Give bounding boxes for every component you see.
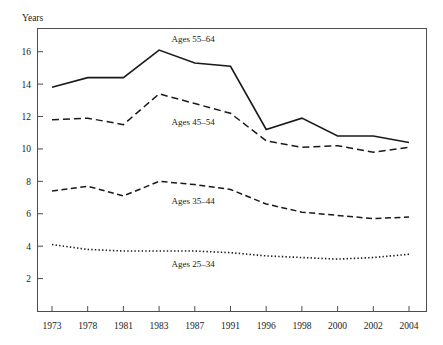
series-label-2: Ages 35–44 [171,196,215,206]
series-label-3: Ages 25–34 [171,259,215,269]
x-tick-label: 1983 [150,321,169,331]
x-tick-label: 2004 [400,321,419,331]
y-tick-label: 12 [22,112,32,122]
x-tick-label: 2000 [328,321,347,331]
x-tick-label: 1973 [43,321,62,331]
x-tick-label: 1987 [185,321,204,331]
y-tick-label: 2 [26,274,31,284]
line-chart-figure: Years 246810121416 197319781981198319871… [0,0,443,345]
x-tick-label: 1978 [78,321,97,331]
x-tick-label: 1998 [292,321,311,331]
y-tick-label: 16 [22,47,32,57]
x-tick-label: 1996 [257,321,276,331]
x-tick-label: 2002 [364,321,383,331]
y-tick-label: 4 [26,242,31,252]
chart-background [0,0,443,345]
y-tick-label: 14 [22,80,32,90]
x-tick-label: 1981 [114,321,133,331]
series-label-1: Ages 45–54 [171,117,215,127]
y-tick-label: 10 [22,144,32,154]
y-tick-label: 6 [26,209,31,219]
x-tick-label: 1991 [221,321,240,331]
y-axis-title: Years [22,13,44,23]
y-tick-label: 8 [26,177,31,187]
series-label-0: Ages 55–64 [171,34,215,44]
